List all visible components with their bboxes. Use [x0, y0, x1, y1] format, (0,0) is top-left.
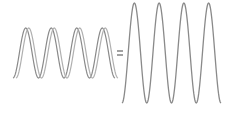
equals-sign — [117, 51, 123, 55]
interference-diagram — [0, 0, 231, 117]
input-waves — [13, 28, 118, 78]
result-wave — [122, 3, 221, 103]
sum-wave — [122, 3, 221, 103]
